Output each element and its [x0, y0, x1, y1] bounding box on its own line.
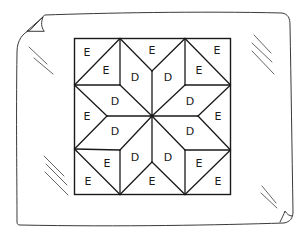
diamond-piece-label: D: [131, 71, 139, 84]
star-seam: [120, 162, 152, 195]
sheen-line: [252, 51, 274, 74]
star-seam: [120, 85, 152, 116]
star-seam: [120, 116, 152, 150]
sheen-line: [45, 172, 68, 195]
star-seam: [75, 116, 108, 149]
triangle-piece-label: E: [85, 175, 92, 188]
star-seam: [152, 85, 185, 116]
quilt-diagram: EEDEDEEDDEEDDDDEEEEE: [0, 0, 306, 230]
triangle-piece-label: E: [104, 157, 111, 170]
diamond-piece-label: D: [186, 95, 194, 108]
triangle-piece-label: E: [149, 175, 156, 188]
sheen-line: [46, 164, 67, 185]
star-seam: [152, 116, 185, 150]
triangle-piece-label: E: [214, 44, 221, 57]
triangle-piece-label: E: [84, 110, 91, 123]
diamond-piece-label: D: [111, 125, 119, 138]
triangle-piece-label: E: [196, 64, 203, 77]
sheen-line: [44, 156, 64, 176]
star-seam: [75, 149, 121, 195]
star-seam: [75, 85, 108, 116]
star-seam: [152, 162, 185, 195]
triangle-piece-label: E: [215, 110, 222, 123]
sheen-line: [252, 43, 272, 62]
star-seam: [185, 150, 231, 195]
center-point: [150, 114, 153, 117]
diamond-piece-label: D: [164, 151, 172, 164]
diamond-piece-label: D: [111, 95, 119, 108]
triangle-piece-label: E: [215, 175, 222, 188]
triangle-piece-label: E: [103, 64, 110, 77]
star-seam: [185, 39, 231, 86]
sheen-line: [261, 193, 277, 208]
triangle-piece-label: E: [84, 46, 91, 59]
star-seam: [120, 39, 152, 72]
diamond-piece-label: D: [131, 151, 139, 164]
star-seam: [75, 149, 121, 150]
star-seam: [75, 39, 121, 86]
diamond-piece-label: D: [186, 125, 194, 138]
triangle-piece-label: E: [196, 157, 203, 170]
triangle-piece-label: E: [149, 44, 156, 57]
star-seam: [152, 39, 185, 72]
quilt-block: EEDEDEEDDEEDDDDEEEEE: [75, 39, 231, 195]
sheen-line: [254, 35, 271, 53]
diamond-piece-label: D: [164, 71, 172, 84]
